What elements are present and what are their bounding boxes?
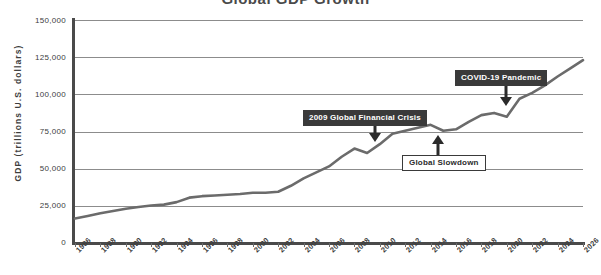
down-arrow-icon-covid	[500, 86, 512, 106]
annotation-global-slowdown: Global Slowdown	[402, 155, 486, 171]
annotation-financial-crisis: 2009 Global Financial Crisis	[303, 110, 427, 126]
up-arrow-icon-global-slowdown	[432, 135, 444, 155]
annotation-covid-pandemic: COVID-19 Pandemic	[455, 70, 547, 86]
